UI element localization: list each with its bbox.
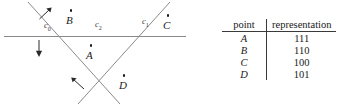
cell-point: B [222, 44, 267, 56]
table-row: C 100 [222, 56, 336, 68]
geometry-diagram: c0 c2 c1 A B C D [0, 0, 190, 105]
curve-label-c1: c1 [142, 17, 149, 28]
normal-arrow-c0 [40, 7, 52, 19]
cell-point: C [222, 56, 267, 68]
point-dot-c [167, 14, 170, 17]
point-label-d: D [119, 80, 127, 91]
normal-arrow-c1 [71, 77, 84, 89]
cell-point: D [222, 68, 267, 80]
cell-representation: 110 [267, 44, 337, 56]
figure-with-table: c0 c2 c1 A B C D point representation [0, 0, 354, 105]
diagram-canvas [0, 0, 190, 105]
curve-label-c2: c2 [95, 20, 102, 31]
representation-table-wrapper: point representation A 111 B 110 C 100 [222, 19, 350, 80]
normal-arrow-c2 [36, 40, 42, 57]
point-dot-a [90, 44, 93, 47]
cell-point: A [222, 32, 267, 45]
point-label-c: C [163, 20, 170, 31]
cell-representation: 101 [267, 68, 337, 80]
representation-table: point representation A 111 B 110 C 100 [222, 19, 336, 80]
header-point: point [222, 19, 267, 32]
point-dot-b [70, 9, 73, 12]
table-row: B 110 [222, 44, 336, 56]
table-row: A 111 [222, 32, 336, 45]
table-row: D 101 [222, 68, 336, 80]
table-header-row: point representation [222, 19, 336, 32]
point-dot-d [123, 74, 126, 77]
cell-representation: 100 [267, 56, 337, 68]
point-label-a: A [86, 50, 93, 61]
header-representation: representation [267, 19, 337, 32]
curve-label-c0: c0 [44, 21, 51, 32]
cell-representation: 111 [267, 32, 337, 45]
point-label-b: B [66, 15, 73, 26]
